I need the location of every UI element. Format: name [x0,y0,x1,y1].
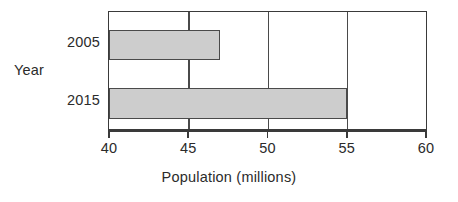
x-tick-label-45: 45 [168,140,208,156]
x-tick-50 [267,130,269,138]
y-tick-label-2015: 2015 [0,92,100,108]
y-axis-title: Year [14,62,44,78]
x-tick-40 [108,130,110,138]
x-tick-45 [187,130,189,138]
plot-area [108,11,427,130]
x-tick-label-60: 60 [406,140,446,156]
x-tick-55 [346,130,348,138]
gridline-55 [347,12,348,129]
bar-chart: 40 45 50 55 60 Population (millions) 200… [0,0,458,202]
x-tick-60 [425,130,427,138]
bar-2005[interactable] [109,30,220,60]
x-tick-label-55: 55 [327,140,367,156]
bar-2015[interactable] [109,88,347,119]
x-axis-title: Population (millions) [0,169,458,185]
x-tick-label-50: 50 [248,140,288,156]
x-tick-label-40: 40 [89,140,129,156]
y-tick-label-2005: 2005 [0,34,100,50]
